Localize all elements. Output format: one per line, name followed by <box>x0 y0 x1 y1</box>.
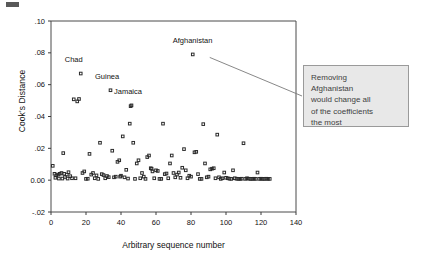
y-axis-tick-label: .04 <box>19 112 45 121</box>
data-point <box>128 122 131 125</box>
y-axis-tick-label: -.02 <box>19 208 45 217</box>
callout-line: of the coefficients <box>311 106 403 117</box>
callout-line: would change all <box>311 94 403 105</box>
x-axis-tick-label: 140 <box>283 218 309 227</box>
data-point <box>137 159 140 162</box>
x-axis-tick-label: 60 <box>143 218 169 227</box>
data-point <box>172 172 175 175</box>
data-point <box>256 171 259 174</box>
data-point <box>74 177 77 180</box>
chart-screenshot: Cook's Distance Arbitrary sequence numbe… <box>0 0 421 262</box>
data-point <box>184 169 187 172</box>
data-point <box>93 177 96 180</box>
data-point <box>151 170 154 173</box>
data-point <box>58 177 61 180</box>
data-point <box>67 171 70 174</box>
callout-line: the most <box>311 117 403 128</box>
y-axis-tick-label: .10 <box>19 17 45 26</box>
data-point <box>139 177 142 180</box>
data-point <box>97 178 100 181</box>
data-point-label: Jamaica <box>114 87 142 96</box>
data-point <box>170 154 173 157</box>
callout-line: Removing <box>311 72 403 83</box>
y-axis-tick-label: .02 <box>19 144 45 153</box>
data-point-label: Afghanistan <box>173 36 213 45</box>
data-point <box>88 153 91 156</box>
data-point <box>202 123 205 126</box>
x-axis-tick-label: 40 <box>108 218 134 227</box>
y-axis-tick-label: .08 <box>19 48 45 57</box>
x-axis-tick-label: 20 <box>73 218 99 227</box>
data-point <box>132 141 135 144</box>
data-point <box>135 162 138 165</box>
data-point <box>232 169 235 172</box>
data-point-label: Chad <box>65 55 83 64</box>
data-point <box>71 177 74 180</box>
data-point <box>191 53 194 56</box>
data-point <box>162 122 165 125</box>
x-axis-tick-label: 0 <box>38 218 64 227</box>
data-point <box>109 89 112 92</box>
plot-frame <box>51 21 296 212</box>
y-axis-tick-label: 0.00 <box>19 176 45 185</box>
data-point <box>111 149 114 152</box>
data-point <box>183 148 186 151</box>
data-point <box>95 174 98 177</box>
data-point <box>144 178 147 181</box>
data-point <box>214 177 217 180</box>
data-point <box>177 171 180 174</box>
data-point <box>169 162 172 165</box>
callout-line: Afghanistan <box>311 83 403 94</box>
data-point <box>78 98 81 101</box>
data-point <box>134 178 137 181</box>
data-point <box>121 135 124 138</box>
callout-leader-line <box>210 57 302 96</box>
data-point <box>181 166 184 169</box>
cooks-distance-scatter-chart: Cook's Distance Arbitrary sequence numbe… <box>0 0 310 262</box>
data-point <box>127 177 130 180</box>
data-point <box>179 176 182 179</box>
data-point <box>72 98 75 101</box>
x-axis-tick-label: 120 <box>248 218 274 227</box>
data-point <box>197 173 200 176</box>
x-axis-tick-label: 100 <box>213 218 239 227</box>
data-point <box>204 162 207 165</box>
data-point <box>79 72 82 75</box>
data-point <box>123 176 126 179</box>
x-axis-title: Arbitrary sequence number <box>51 240 296 250</box>
data-point <box>242 142 245 145</box>
data-point <box>141 172 144 175</box>
x-axis-tick-label: 80 <box>178 218 204 227</box>
data-point <box>125 169 128 172</box>
y-axis-tick-label: .06 <box>19 80 45 89</box>
data-point <box>99 141 102 144</box>
data-point <box>167 177 170 180</box>
data-point <box>216 133 219 136</box>
data-point-label: Guinea <box>95 72 119 81</box>
data-point <box>62 152 65 155</box>
data-point <box>51 165 54 168</box>
data-point <box>153 177 156 180</box>
data-point <box>223 171 226 174</box>
callout-box: Removing Afghanistan would change all of… <box>303 65 409 127</box>
